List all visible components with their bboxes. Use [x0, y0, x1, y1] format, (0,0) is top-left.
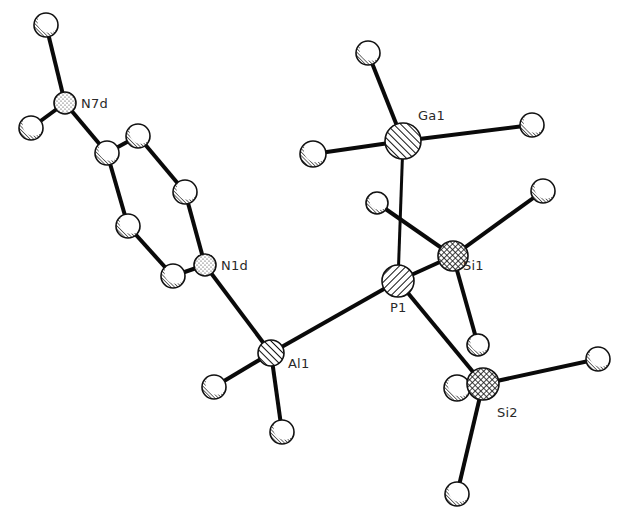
- atom-h_si2c: [445, 480, 471, 506]
- atom-h_al1a: [202, 373, 228, 399]
- atoms-layer: [19, 11, 612, 506]
- bond-p1-ga1: [398, 141, 403, 281]
- atom-label-al1: Al1: [288, 356, 309, 371]
- atom-h_si1c: [467, 332, 491, 356]
- bond-si2-h_si2b: [483, 359, 598, 384]
- bond-n1d-al1: [205, 265, 271, 353]
- bond-ga1-h_ga1c: [403, 125, 532, 141]
- atom-c5d: [116, 212, 142, 238]
- atom-label-si1: Si1: [463, 258, 484, 273]
- atom-h_n7a: [34, 11, 60, 37]
- atom-c3d: [126, 122, 152, 148]
- molecular-structure-diagram: N7d N1d Ga1 Si1 P1 Al1 Si2: [0, 0, 624, 520]
- atom-h_si1b: [531, 177, 557, 203]
- atom-label-p1: P1: [390, 300, 407, 315]
- atom-h_n7b: [19, 114, 45, 140]
- atom-h_ga1a: [356, 39, 382, 65]
- atom-p1: [382, 265, 414, 297]
- atom-label-si2: Si2: [497, 405, 518, 420]
- bonds-layer: [31, 25, 598, 494]
- atom-label-n1d: N1d: [221, 258, 248, 273]
- atom-label-ga1: Ga1: [418, 108, 445, 123]
- atom-h_si1a: [366, 190, 390, 214]
- bond-si1-h_si1b: [453, 191, 543, 256]
- atom-al1: [258, 340, 284, 366]
- atom-h_ga1b: [300, 138, 328, 167]
- atom-h_ga1c: [520, 111, 546, 137]
- atom-ga1: [385, 123, 421, 159]
- atom-h_si2b: [586, 345, 612, 371]
- atom-label-n7d: N7d: [81, 96, 108, 111]
- bond-al1-p1: [271, 281, 398, 353]
- atom-si2: [467, 368, 499, 400]
- bond-p1-si2: [398, 281, 483, 384]
- atom-h_al1b: [270, 418, 296, 444]
- atom-n7d: [54, 92, 76, 114]
- atom-n1d: [194, 254, 216, 276]
